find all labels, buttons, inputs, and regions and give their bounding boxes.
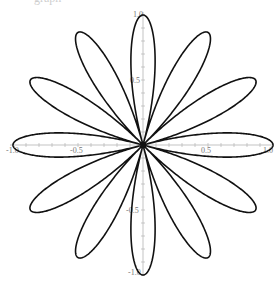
- x-tick-label-05: 0.5: [201, 146, 211, 155]
- x-tick-label-neg05: -0.5: [70, 146, 83, 155]
- polar-rose-plot: -1.0 -0.5 0.5 1.0 1.0 0.5 -0.5 -1.0: [0, 0, 280, 284]
